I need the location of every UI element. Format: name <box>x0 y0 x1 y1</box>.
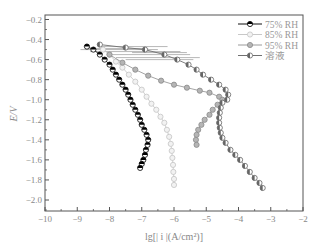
y-tick-label: −2.0 <box>26 195 43 205</box>
x-tick-label: −4 <box>234 214 244 224</box>
legend: 75% RH85% RH95% RH溶液 <box>238 20 298 62</box>
legend-label: 溶液 <box>265 50 285 61</box>
y-tick-label: −0.4 <box>26 35 43 45</box>
series-layer <box>80 42 265 191</box>
y-tick-label: −1.2 <box>26 115 42 125</box>
x-tick-label: −2 <box>298 214 308 224</box>
x-tick-label: −8 <box>105 214 115 224</box>
legend-item: 75% RH <box>238 20 298 30</box>
x-tick-label: −6 <box>169 214 179 224</box>
legend-item: 85% RH <box>238 30 298 40</box>
legend-item: 95% RH <box>238 41 298 51</box>
legend-label: 75% RH <box>265 20 298 30</box>
polarization-chart: −10−9−8−7−6−5−4−3−2−0.2−0.4−0.6−0.8−1.0−… <box>0 0 319 251</box>
y-tick-label: −0.6 <box>26 55 43 65</box>
y-tick-label: −1.0 <box>26 95 43 105</box>
x-tick-label: −10 <box>38 214 53 224</box>
legend-item: 溶液 <box>238 50 285 61</box>
x-tick-label: −7 <box>137 214 147 224</box>
y-tick-label: −1.8 <box>26 175 43 185</box>
y-tick-label: −0.8 <box>26 75 43 85</box>
legend-label: 95% RH <box>265 41 298 51</box>
x-axis-label: lg[| i |(A/cm²)] <box>145 231 203 243</box>
x-tick-label: −3 <box>266 214 276 224</box>
x-tick-label: −5 <box>201 214 211 224</box>
y-tick-label: −0.2 <box>26 15 42 25</box>
y-tick-label: −1.6 <box>26 155 43 165</box>
y-tick-label: −1.4 <box>26 135 43 145</box>
x-tick-label: −9 <box>72 214 82 224</box>
y-axis-label: E/V <box>8 105 19 123</box>
legend-label: 85% RH <box>265 30 298 40</box>
